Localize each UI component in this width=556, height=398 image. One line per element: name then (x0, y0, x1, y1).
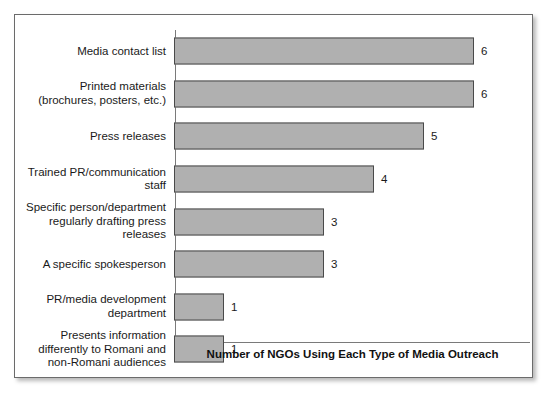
bar-row: Printed materials (brochures, posters, e… (15, 73, 532, 116)
category-label: Presents information differently to Roma… (15, 329, 173, 370)
category-label: PR/media development department (15, 293, 173, 320)
bar-row: PR/media development department 1 (15, 286, 532, 329)
bar-track: 4 (173, 158, 532, 201)
category-label: Press releases (15, 130, 173, 144)
bar-value-label: 1 (231, 301, 237, 313)
bar-track: 6 (173, 30, 532, 73)
bar-track: 6 (173, 73, 532, 116)
bar-value-label: 5 (431, 130, 437, 142)
bar (174, 166, 374, 193)
bar-track: 1 (173, 286, 532, 329)
bar-track: 5 (173, 115, 532, 158)
value-axis-title: Number of NGOs Using Each Type of Media … (175, 348, 530, 360)
bar (174, 208, 324, 235)
category-label: Printed materials (brochures, posters, e… (15, 80, 173, 107)
bar-value-label: 6 (481, 45, 487, 57)
bar (174, 80, 474, 107)
bar-rows: Media contact list 6 Printed materials (… (15, 30, 532, 371)
bar-value-label: 3 (331, 258, 337, 270)
chart-plot-area: Media contact list 6 Printed materials (… (15, 15, 532, 377)
bar-row: Press releases 5 (15, 115, 532, 158)
chart-figure: Media contact list 6 Printed materials (… (14, 14, 533, 378)
bar-row: Trained PR/communication staff 4 (15, 158, 532, 201)
category-label: Media contact list (15, 45, 173, 59)
bar-track: 3 (173, 243, 532, 286)
bar (174, 123, 424, 150)
bar-value-label: 3 (331, 216, 337, 228)
bar-row: Media contact list 6 (15, 30, 532, 73)
bar (174, 38, 474, 65)
bar-value-label: 6 (481, 88, 487, 100)
category-label: Specific person/department regularly dra… (15, 201, 173, 242)
bar-row: A specific spokesperson 3 (15, 243, 532, 286)
category-label: Trained PR/communication staff (15, 166, 173, 193)
bar (174, 293, 224, 320)
bar-value-label: 4 (381, 173, 387, 185)
category-label: A specific spokesperson (15, 258, 173, 272)
bar-row: Specific person/department regularly dra… (15, 200, 532, 243)
bar (174, 251, 324, 278)
bar-track: 3 (173, 200, 532, 243)
